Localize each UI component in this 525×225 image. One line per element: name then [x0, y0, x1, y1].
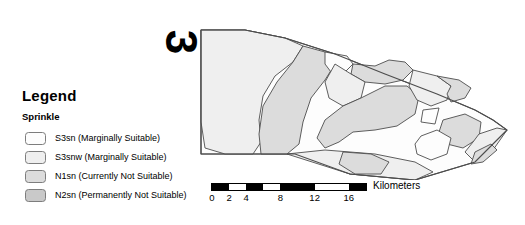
- scale-bar: 02481216 Kilometers: [211, 183, 426, 204]
- map-canvas: [175, 2, 523, 180]
- legend-subtitle: Sprinkle: [22, 112, 222, 122]
- scale-bar-tick-label: 16: [344, 192, 355, 204]
- legend-swatch-s3snw: [25, 151, 46, 164]
- map-index-label: 3: [156, 25, 204, 59]
- legend-label-n1sn: N1sn (Currently Not Suitable): [55, 172, 173, 181]
- legend-panel: Legend Sprinkle S3sn (Marginally Suitabl…: [22, 88, 222, 205]
- scale-bar-segment: [280, 184, 314, 190]
- scale-bar-segment: [315, 184, 349, 190]
- legend-swatch-s3sn: [25, 132, 46, 145]
- legend-item-n2sn: N2sn (Permanently Not Suitable): [22, 186, 222, 205]
- scale-bar-segment: [212, 184, 229, 190]
- scale-bar-tick-label: 2: [226, 192, 231, 204]
- scale-bar-segment: [349, 184, 366, 190]
- scale-bar-tick-label: 8: [278, 192, 283, 204]
- scale-bar-tick-label: 0: [209, 192, 214, 204]
- scale-bar-track: [211, 183, 367, 191]
- scale-bar-unit-label: Kilometers: [373, 180, 420, 192]
- legend-item-s3snw: S3snw (Marginally Suitable): [22, 148, 222, 167]
- scale-bar-segment: [263, 184, 280, 190]
- legend-swatch-n2sn: [25, 189, 46, 202]
- legend-label-s3snw: S3snw (Marginally Suitable): [55, 153, 167, 162]
- map-polygon-group: [201, 30, 507, 180]
- scale-bar-tick-label: 4: [244, 192, 249, 204]
- legend-item-n1sn: N1sn (Currently Not Suitable): [22, 167, 222, 186]
- legend-label-n2sn: N2sn (Permanently Not Suitable): [55, 191, 187, 200]
- legend-title: Legend: [22, 88, 222, 103]
- scale-bar-segment: [229, 184, 246, 190]
- scale-bar-labels: 02481216: [211, 192, 381, 204]
- scale-bar-segment: [246, 184, 263, 190]
- map-polygons: [175, 2, 523, 180]
- scale-bar-tick-label: 12: [309, 192, 320, 204]
- legend-swatch-n1sn: [25, 170, 46, 183]
- legend-label-s3sn: S3sn (Marginally Suitable): [55, 134, 160, 143]
- legend-item-s3sn: S3sn (Marginally Suitable): [22, 129, 222, 148]
